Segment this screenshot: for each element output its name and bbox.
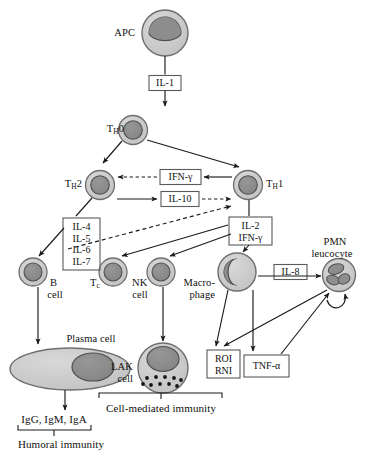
label-nk-cell-line1: NK: [132, 277, 147, 288]
label-th1: TH1: [266, 178, 283, 189]
box-label-il6: IL-6: [73, 244, 91, 256]
line-th2-to-il4567: [76, 198, 92, 216]
box-label-il2-ifn-gamma: IFN-γ: [239, 231, 263, 243]
label-th1-subscript: H: [273, 182, 278, 191]
label-th0-number: 0: [119, 123, 124, 134]
label-th2-number: 2: [77, 178, 82, 189]
label-apc: APC: [114, 27, 135, 38]
label-antibodies: IgG, IgM, IgA: [21, 414, 86, 426]
label-macrophage-line2: phage: [189, 289, 215, 300]
cell-b: [19, 258, 47, 286]
label-b-cell-line1: B: [50, 277, 57, 288]
box-label-roi: ROI: [215, 353, 232, 365]
immune-response-diagram: APC TH0 TH2 TH1 B cell Tc NK cell Macro-…: [0, 0, 366, 467]
cell-th2: [86, 171, 115, 200]
label-th0: TH0: [107, 123, 124, 134]
box-label-il5: IL-5: [73, 233, 91, 245]
arrow-th0-to-th2: [103, 141, 122, 163]
arrow-il2ifng-to-nk: [170, 234, 231, 256]
cell-pmn: [323, 259, 356, 292]
box-label-il1: IL-1: [156, 77, 174, 89]
label-cell-mediated-immunity: Cell-mediated immunity: [106, 403, 216, 415]
box-label-il10: IL-10: [169, 193, 192, 205]
box-label-il2-ifng: IL-2 IFN-γ: [239, 220, 263, 243]
box-label-roi-rni: ROI RNI: [215, 353, 232, 376]
arrow-pmn-to-roirni: [224, 290, 327, 346]
cell-nk: [147, 258, 175, 286]
label-th0-subscript: H: [113, 127, 118, 136]
label-pmn-line1: PMN: [323, 236, 346, 247]
box-label-il2: IL-2: [239, 220, 263, 232]
label-b-cell-line2: cell: [47, 289, 63, 300]
diagram-vector-layer: [0, 0, 366, 467]
box-label-il8: IL-8: [282, 266, 300, 278]
label-pmn-line2: leucocyte: [311, 248, 352, 259]
arrow-th0-to-th1: [147, 140, 239, 167]
box-label-ifn-gamma: IFN-γ: [169, 171, 193, 183]
label-th2-subscript: H: [71, 182, 76, 191]
label-th1-number: 1: [278, 178, 283, 189]
label-tc-cell: Tc: [90, 277, 100, 288]
box-label-rni: RNI: [215, 364, 232, 376]
arrow-pmn-autocrine: [327, 294, 345, 308]
arrow-il2ifng-to-macrophage: [243, 245, 249, 252]
label-humoral-immunity: Humoral immunity: [18, 439, 104, 451]
arrow-macrophage-to-roirni: [216, 290, 228, 346]
box-label-il4: IL-4: [73, 221, 91, 233]
box-label-tnf-alpha: TNF-α: [253, 360, 280, 372]
box-label-il7: IL-7: [73, 256, 91, 268]
label-tc-subscript: c: [97, 281, 100, 290]
box-label-il4567: IL-4 IL-5 IL-6 IL-7: [73, 221, 91, 267]
label-th2: TH2: [65, 178, 82, 189]
label-plasma-cell: Plasma cell: [66, 333, 115, 344]
label-lak-line1: LAK: [111, 361, 133, 372]
cell-apc: [142, 10, 188, 56]
cell-lak: [138, 343, 188, 393]
label-macrophage-line1: Macro-: [183, 277, 215, 288]
cell-th1: [234, 171, 263, 200]
cell-macrophage: [218, 253, 256, 291]
label-nk-cell-line2: cell: [132, 289, 148, 300]
cell-tc: [99, 258, 127, 286]
arrow-il4567-to-bcell: [39, 228, 64, 256]
label-lak-line2: cell: [117, 373, 133, 384]
